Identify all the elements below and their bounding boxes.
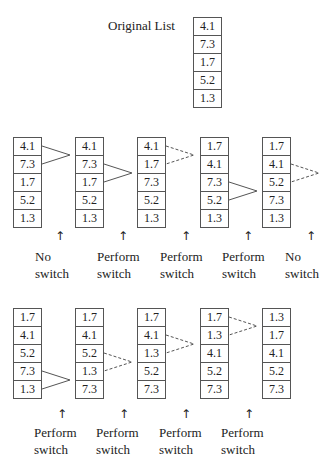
row1-label-4: Performswitch xyxy=(222,248,265,282)
label-line: switch xyxy=(159,441,202,458)
compare-dashed xyxy=(166,335,194,353)
up-arrow-icon: ↑ xyxy=(55,229,65,243)
label-line: Perform xyxy=(222,248,265,265)
up-arrow-icon: ↑ xyxy=(181,407,191,421)
label-line: Perform xyxy=(221,424,264,441)
row2-label-4: Performswitch xyxy=(221,424,264,458)
up-arrow-icon: ↑ xyxy=(243,229,253,243)
compare-solid xyxy=(104,164,132,182)
comparison-connectors xyxy=(0,0,329,459)
compare-dashed xyxy=(166,146,194,164)
label-line: switch xyxy=(97,265,140,282)
up-arrow-icon: ↑ xyxy=(119,407,129,421)
label-line: No xyxy=(285,248,319,265)
label-line: Perform xyxy=(160,248,203,265)
label-line: Perform xyxy=(97,248,140,265)
label-line: switch xyxy=(285,265,319,282)
label-line: switch xyxy=(96,441,139,458)
row2-label-2: Performswitch xyxy=(96,424,139,458)
row1-label-3: Performswitch xyxy=(160,248,203,282)
compare-dashed xyxy=(104,353,132,371)
label-line: switch xyxy=(160,265,203,282)
row1-label-2: Performswitch xyxy=(97,248,140,282)
compare-solid xyxy=(229,182,257,200)
label-line: switch xyxy=(34,441,77,458)
label-line: Perform xyxy=(34,424,77,441)
row1-label-5: Noswitch xyxy=(285,248,319,282)
up-arrow-icon: ↑ xyxy=(118,229,128,243)
up-arrow-icon: ↑ xyxy=(181,229,191,243)
label-line: switch xyxy=(222,265,265,282)
row2-label-1: Performswitch xyxy=(34,424,77,458)
compare-dashed xyxy=(229,317,257,335)
label-line: switch xyxy=(35,265,69,282)
label-line: No xyxy=(35,248,69,265)
up-arrow-icon: ↑ xyxy=(57,407,67,421)
up-arrow-icon: ↑ xyxy=(306,229,316,243)
up-arrow-icon: ↑ xyxy=(244,407,254,421)
row2-label-3: Performswitch xyxy=(159,424,202,458)
label-line: Perform xyxy=(96,424,139,441)
compare-dashed xyxy=(291,164,319,182)
row1-label-1: Noswitch xyxy=(35,248,69,282)
label-line: switch xyxy=(221,441,264,458)
label-line: Perform xyxy=(159,424,202,441)
compare-solid xyxy=(42,371,70,389)
compare-solid xyxy=(42,146,70,164)
